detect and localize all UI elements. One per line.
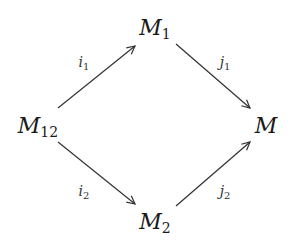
- label-j1-sub: 1: [224, 61, 230, 72]
- label-i1-sub: 1: [83, 61, 89, 72]
- arrow-i2: [58, 142, 135, 204]
- arrow-j1: [176, 44, 250, 108]
- node-m1-base: M: [139, 15, 162, 40]
- node-m2-sub: 2: [162, 220, 171, 236]
- node-m12-sub: 12: [40, 124, 58, 140]
- node-m2: M2: [139, 209, 170, 236]
- node-m2-base: M: [139, 209, 162, 234]
- arrow-i1: [58, 46, 135, 108]
- node-m: M: [255, 113, 278, 138]
- node-m-base: M: [255, 113, 278, 138]
- node-m1: M1: [139, 15, 170, 42]
- node-m1-sub: 1: [162, 26, 171, 42]
- node-m12-base: M: [18, 113, 41, 138]
- node-m12: M12: [18, 113, 58, 140]
- label-j2: j2: [220, 183, 231, 201]
- label-i2-sub: 2: [83, 190, 89, 201]
- label-i2: i2: [79, 183, 90, 201]
- arrow-j2: [176, 142, 250, 206]
- label-j2-sub: 2: [224, 190, 230, 201]
- label-j1: j1: [220, 54, 231, 72]
- label-i1: i1: [79, 54, 90, 72]
